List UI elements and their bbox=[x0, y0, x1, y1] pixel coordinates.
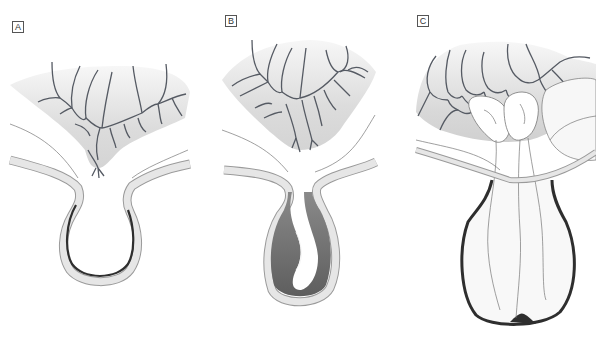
bowel-loop bbox=[542, 78, 596, 160]
mesentery bbox=[10, 66, 190, 168]
panel-c-illustration bbox=[400, 0, 596, 344]
panel-a: A bbox=[0, 0, 200, 344]
sac-wall bbox=[224, 162, 376, 302]
panel-a-illustration bbox=[0, 0, 200, 344]
mesentery bbox=[222, 40, 376, 150]
anatomical-figure: A bbox=[0, 0, 596, 344]
panel-b: B bbox=[200, 0, 400, 344]
panel-b-illustration bbox=[200, 0, 400, 344]
panel-c: C bbox=[400, 0, 596, 344]
dark-lining bbox=[67, 205, 133, 276]
sac-wall bbox=[10, 160, 190, 282]
